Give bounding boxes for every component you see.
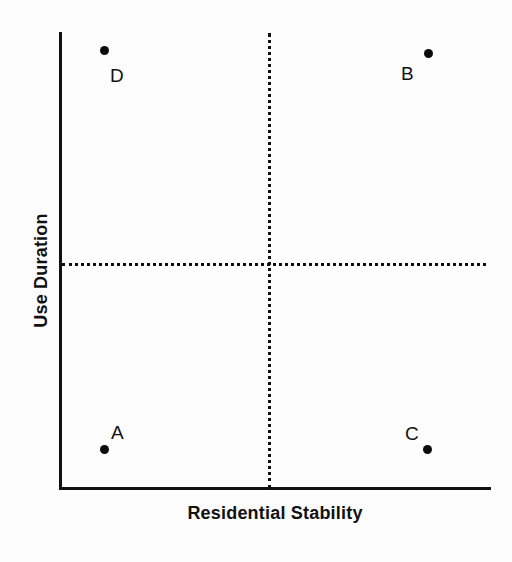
data-point-label-d: D [110, 66, 124, 85]
data-point-label-b: B [401, 64, 414, 83]
data-point-label-c: C [405, 424, 419, 443]
x-axis-title: Residential Stability [59, 503, 491, 524]
data-point-c [423, 445, 432, 454]
data-point-a [100, 445, 109, 454]
quadrant-divider-horizontal [62, 263, 486, 266]
data-point-label-a: A [111, 423, 124, 442]
data-point-d [100, 46, 109, 55]
y-axis-title: Use Duration [31, 191, 52, 351]
quadrant-divider-vertical [268, 33, 271, 489]
x-axis-line [59, 487, 491, 490]
y-axis-line [59, 32, 62, 490]
scatter-plot-figure: D B A C Residential Stability Use Durati… [0, 0, 512, 562]
data-point-b [424, 49, 433, 58]
